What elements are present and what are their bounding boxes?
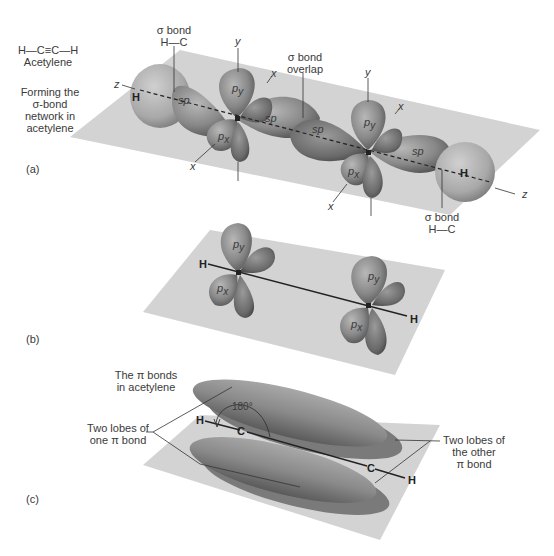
angle-label: 180° bbox=[232, 401, 253, 412]
axis-x-left-lower: x bbox=[189, 160, 196, 172]
sp-label-2: sp bbox=[265, 112, 277, 124]
left-callout-l1: Two lobes of bbox=[87, 422, 150, 434]
axis-x-right-upper: x bbox=[397, 100, 404, 112]
axis-y-right: y bbox=[364, 66, 372, 78]
atom-h-c-right: H bbox=[408, 474, 416, 486]
plane-b bbox=[143, 230, 445, 375]
panel-b: H H py px py px (b) bbox=[26, 223, 445, 375]
sigma-bond-left-l2: H—C bbox=[161, 36, 188, 48]
atom-h-left: H bbox=[132, 91, 140, 103]
axis-x-left-upper: x bbox=[270, 67, 277, 79]
sigma-overlap-l2: overlap bbox=[287, 63, 323, 75]
caption-a-l1: Forming the bbox=[21, 86, 80, 98]
axis-y-left: y bbox=[234, 35, 242, 47]
sigma-bond-right-l1: σ bond bbox=[425, 211, 459, 223]
panel-b-label: (b) bbox=[26, 333, 39, 345]
carbon-nucleus-right bbox=[366, 150, 371, 155]
acetylene-name: Acetylene bbox=[24, 56, 72, 68]
acetylene-orbital-diagram: H H sp sp sp sp py px py px y x y x x x … bbox=[0, 0, 554, 556]
atom-c-c-left: C bbox=[237, 425, 245, 437]
axis-x-right-lower: x bbox=[327, 200, 334, 212]
carbon-nucleus-b-right bbox=[366, 303, 371, 308]
sp-label-1: sp bbox=[178, 94, 190, 106]
right-callout-l3: π bond bbox=[456, 458, 491, 470]
z-axis-right-tick bbox=[495, 188, 515, 194]
panel-c-label: (c) bbox=[26, 493, 39, 505]
right-callout-l1: Two lobes of bbox=[443, 434, 506, 446]
atom-h-b-left: H bbox=[199, 258, 207, 270]
caption-a-l2: σ-bond bbox=[33, 98, 68, 110]
sigma-bond-left-l1: σ bond bbox=[157, 24, 191, 36]
atom-h-b-right: H bbox=[410, 313, 418, 325]
axis-z-right: z bbox=[521, 188, 528, 200]
caption-c-l2: in acetylene bbox=[117, 381, 176, 393]
acetylene-formula: H—C≡C—H bbox=[18, 44, 78, 56]
right-callout-l2: the other bbox=[452, 446, 496, 458]
sp-label-4: sp bbox=[412, 145, 424, 157]
caption-c-l1: The π bonds bbox=[115, 369, 178, 381]
axis-z-left: z bbox=[113, 78, 120, 90]
sp-label-3: sp bbox=[312, 123, 324, 135]
sigma-overlap-l1: σ bond bbox=[288, 51, 322, 63]
atom-h-c-left: H bbox=[196, 414, 204, 426]
sigma-bond-right-l2: H—C bbox=[429, 223, 456, 235]
caption-a-l3: network in bbox=[25, 110, 75, 122]
panel-a: H H sp sp sp sp py px py px y x y x x x … bbox=[18, 24, 540, 235]
caption-a-l4: acetylene bbox=[26, 122, 73, 134]
carbon-nucleus-b-left bbox=[236, 270, 241, 275]
atom-h-right: H bbox=[460, 167, 468, 179]
left-callout-l2: one π bond bbox=[90, 434, 147, 446]
atom-c-c-right: C bbox=[367, 462, 375, 474]
panel-a-label: (a) bbox=[26, 163, 39, 175]
panel-c: H C C H 180° The π bonds in acetylene Tw… bbox=[26, 366, 506, 540]
carbon-nucleus-left bbox=[235, 116, 240, 121]
